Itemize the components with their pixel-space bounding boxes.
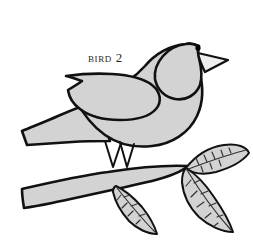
leaf-lower-right — [182, 168, 233, 232]
illustration-root: Bird 2 — [0, 0, 253, 248]
bird-eye — [195, 45, 200, 50]
bird-beak — [198, 53, 228, 72]
branch-ribbon — [22, 166, 188, 208]
bird-leg-back — [105, 141, 121, 167]
bird-illustration — [0, 0, 253, 248]
